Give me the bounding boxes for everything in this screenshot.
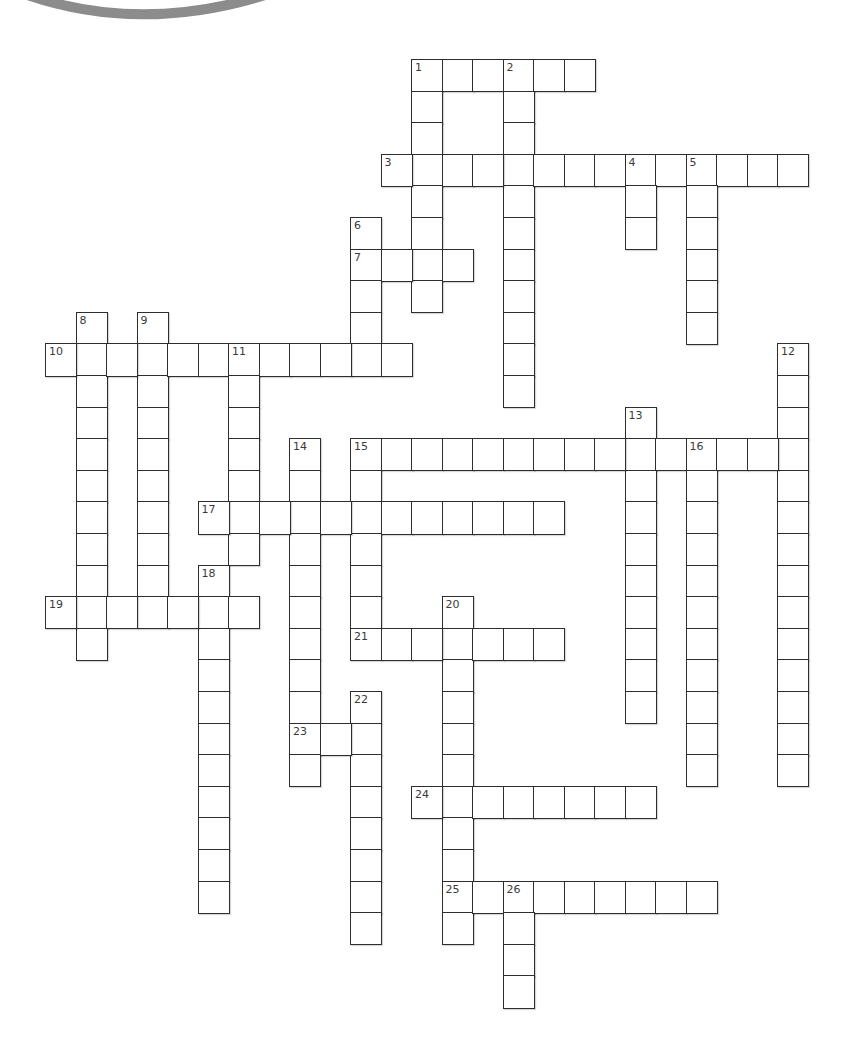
crossword-cell[interactable] xyxy=(350,881,382,914)
crossword-cell[interactable] xyxy=(625,786,657,819)
crossword-cell[interactable] xyxy=(442,628,474,661)
crossword-cell[interactable] xyxy=(289,501,321,534)
crossword-cell[interactable] xyxy=(686,470,718,503)
crossword-cell[interactable] xyxy=(777,438,809,471)
crossword-cell[interactable] xyxy=(167,343,199,376)
crossword-cell[interactable] xyxy=(442,691,474,724)
crossword-cell[interactable] xyxy=(625,628,657,661)
crossword-cell[interactable] xyxy=(564,881,596,914)
crossword-cell[interactable] xyxy=(686,185,718,218)
crossword-cell[interactable] xyxy=(533,628,565,661)
crossword-cell[interactable] xyxy=(381,628,413,661)
crossword-cell[interactable] xyxy=(228,596,260,629)
crossword-cell[interactable] xyxy=(198,786,230,819)
crossword-cell[interactable] xyxy=(777,533,809,566)
crossword-cell[interactable] xyxy=(686,533,718,566)
crossword-cell[interactable] xyxy=(777,628,809,661)
crossword-cell[interactable] xyxy=(564,786,596,819)
crossword-cell[interactable] xyxy=(503,975,535,1008)
crossword-cell[interactable] xyxy=(686,596,718,629)
crossword-cell[interactable] xyxy=(350,912,382,945)
crossword-cell[interactable] xyxy=(320,723,352,756)
crossword-cell[interactable] xyxy=(137,501,169,534)
crossword-cell[interactable] xyxy=(686,881,718,914)
crossword-cell[interactable] xyxy=(198,343,230,376)
crossword-cell[interactable]: 6 xyxy=(350,217,382,250)
crossword-cell[interactable]: 21 xyxy=(350,628,382,661)
crossword-cell[interactable] xyxy=(442,786,474,819)
crossword-cell[interactable] xyxy=(76,375,108,408)
crossword-cell[interactable] xyxy=(625,691,657,724)
crossword-cell[interactable] xyxy=(320,501,352,534)
crossword-cell[interactable]: 18 xyxy=(198,565,230,598)
crossword-cell[interactable] xyxy=(106,596,138,629)
crossword-cell[interactable] xyxy=(503,154,535,187)
crossword-cell[interactable] xyxy=(137,438,169,471)
crossword-cell[interactable] xyxy=(594,881,626,914)
crossword-cell[interactable] xyxy=(472,59,504,92)
crossword-cell[interactable] xyxy=(533,154,565,187)
crossword-cell[interactable]: 7 xyxy=(350,249,382,282)
crossword-cell[interactable] xyxy=(411,122,443,155)
crossword-cell[interactable] xyxy=(350,312,382,345)
crossword-cell[interactable] xyxy=(442,849,474,882)
crossword-cell[interactable] xyxy=(533,786,565,819)
crossword-cell[interactable] xyxy=(76,343,108,376)
crossword-cell[interactable] xyxy=(777,501,809,534)
crossword-cell[interactable]: 2 xyxy=(503,59,535,92)
crossword-cell[interactable] xyxy=(198,691,230,724)
crossword-cell[interactable] xyxy=(350,280,382,313)
crossword-cell[interactable] xyxy=(777,565,809,598)
crossword-cell[interactable]: 22 xyxy=(350,691,382,724)
crossword-cell[interactable] xyxy=(686,565,718,598)
crossword-cell[interactable] xyxy=(686,628,718,661)
crossword-cell[interactable] xyxy=(259,501,291,534)
crossword-cell[interactable] xyxy=(137,407,169,440)
crossword-cell[interactable] xyxy=(228,501,260,534)
crossword-cell[interactable] xyxy=(503,944,535,977)
crossword-cell[interactable] xyxy=(777,723,809,756)
crossword-cell[interactable] xyxy=(228,375,260,408)
crossword-cell[interactable]: 23 xyxy=(289,723,321,756)
crossword-cell[interactable] xyxy=(686,217,718,250)
crossword-cell[interactable] xyxy=(655,154,687,187)
crossword-cell[interactable] xyxy=(442,817,474,850)
crossword-cell[interactable] xyxy=(320,343,352,376)
crossword-cell[interactable] xyxy=(716,154,748,187)
crossword-cell[interactable] xyxy=(594,438,626,471)
crossword-cell[interactable] xyxy=(228,470,260,503)
crossword-cell[interactable]: 15 xyxy=(350,438,382,471)
crossword-cell[interactable] xyxy=(503,217,535,250)
crossword-cell[interactable] xyxy=(381,249,413,282)
crossword-cell[interactable] xyxy=(76,533,108,566)
crossword-cell[interactable]: 19 xyxy=(45,596,77,629)
crossword-cell[interactable]: 11 xyxy=(228,343,260,376)
crossword-cell[interactable] xyxy=(503,786,535,819)
crossword-cell[interactable] xyxy=(503,501,535,534)
crossword-cell[interactable] xyxy=(198,659,230,692)
crossword-cell[interactable] xyxy=(625,565,657,598)
crossword-cell[interactable]: 20 xyxy=(442,596,474,629)
crossword-cell[interactable] xyxy=(76,628,108,661)
crossword-cell[interactable]: 8 xyxy=(76,312,108,345)
crossword-cell[interactable] xyxy=(350,723,382,756)
crossword-cell[interactable] xyxy=(503,91,535,124)
crossword-cell[interactable] xyxy=(411,628,443,661)
crossword-cell[interactable] xyxy=(686,249,718,282)
crossword-cell[interactable]: 12 xyxy=(777,343,809,376)
crossword-cell[interactable] xyxy=(625,185,657,218)
crossword-cell[interactable] xyxy=(777,754,809,787)
crossword-cell[interactable]: 5 xyxy=(686,154,718,187)
crossword-cell[interactable]: 1 xyxy=(411,59,443,92)
crossword-cell[interactable] xyxy=(777,407,809,440)
crossword-cell[interactable] xyxy=(472,786,504,819)
crossword-cell[interactable] xyxy=(625,881,657,914)
crossword-cell[interactable] xyxy=(350,596,382,629)
crossword-cell[interactable] xyxy=(381,438,413,471)
crossword-cell[interactable]: 9 xyxy=(137,312,169,345)
crossword-cell[interactable] xyxy=(289,596,321,629)
crossword-cell[interactable] xyxy=(533,501,565,534)
crossword-cell[interactable] xyxy=(625,470,657,503)
crossword-cell[interactable]: 25 xyxy=(442,881,474,914)
crossword-cell[interactable] xyxy=(76,596,108,629)
